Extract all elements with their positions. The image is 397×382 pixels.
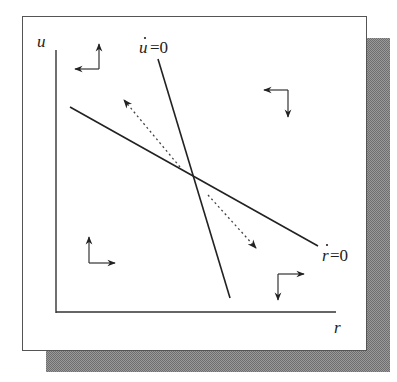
figure-frame [23, 17, 367, 351]
svg-text:u: u [139, 38, 148, 57]
svg-text:=0: =0 [330, 246, 348, 265]
diagram-canvas: u r u =0 r =0 [0, 0, 397, 382]
y-axis-label: u [37, 32, 46, 51]
x-axis-label: r [334, 318, 341, 337]
r-dot-zero-label: r =0 [322, 244, 348, 265]
svg-text:=0: =0 [150, 38, 168, 57]
u-dot-zero-label: u =0 [139, 37, 168, 57]
phase-diagram-figure: u r u =0 r =0 [0, 0, 397, 382]
svg-text:r: r [322, 246, 329, 265]
